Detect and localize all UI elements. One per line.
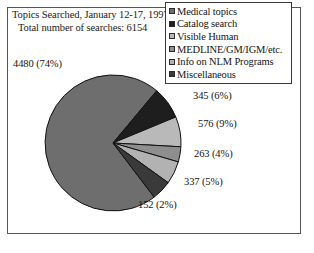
data-label-visible-human: 576 (9%) — [198, 118, 237, 129]
legend-item-label: Visible Human — [177, 31, 238, 42]
legend-item-label: Miscellaneous — [177, 69, 236, 80]
chart-title-block: Topics Searched, January 12-17, 1997 Tot… — [12, 9, 180, 34]
legend-item-catalog-search[interactable]: Catalog search — [169, 18, 288, 31]
legend-item-label: Medical topics — [177, 6, 237, 17]
legend-swatch-icon — [169, 71, 175, 77]
data-label-medical-topics: 4480 (74%) — [13, 58, 62, 69]
legend-swatch-icon — [169, 46, 175, 52]
legend-item-label: Catalog search — [177, 18, 237, 29]
data-label-nlm-programs: 337 (5%) — [184, 176, 223, 187]
legend-item-label: MEDLINE/GM/IGM/etc. — [177, 44, 282, 55]
chart-screenshot: Topics Searched, January 12-17, 1997 Tot… — [0, 0, 314, 253]
legend-swatch-icon — [169, 59, 175, 65]
data-label-medline: 263 (4%) — [194, 148, 233, 159]
legend-item-label: Info on NLM Programs — [177, 56, 273, 67]
legend-item-medical-topics[interactable]: Medical topics — [169, 5, 288, 18]
chart-legend: Medical topics Catalog search Visible Hu… — [165, 2, 292, 84]
page-title: Topics Searched, January 12-17, 1997 — [12, 9, 180, 22]
data-label-miscellaneous: 152 (2%) — [138, 199, 177, 210]
legend-item-miscellaneous[interactable]: Miscellaneous — [169, 68, 288, 81]
legend-item-visible-human[interactable]: Visible Human — [169, 30, 288, 43]
legend-swatch-icon — [169, 8, 175, 14]
legend-swatch-icon — [169, 21, 175, 27]
data-label-catalog-search: 345 (6%) — [193, 90, 232, 101]
legend-item-nlm-programs[interactable]: Info on NLM Programs — [169, 55, 288, 68]
chart-subtitle: Total number of searches: 6154 — [12, 22, 180, 35]
legend-swatch-icon — [169, 33, 175, 39]
legend-item-medline[interactable]: MEDLINE/GM/IGM/etc. — [169, 43, 288, 56]
